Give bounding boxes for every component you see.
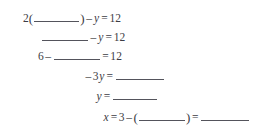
- blank-field-4[interactable]: [116, 70, 164, 80]
- equals-sign-line-5: =: [102, 90, 112, 102]
- equals-sign-line-3: =: [101, 50, 111, 62]
- right-side-line-3: 12: [110, 50, 122, 62]
- equation-line-6: x=3–()=: [103, 110, 250, 124]
- equals-sign-2-line-6: =: [190, 111, 200, 123]
- blank-field-5[interactable]: [113, 90, 157, 100]
- minus-sign-line-3: –: [44, 50, 53, 62]
- left-number-line-3: 6: [38, 50, 44, 62]
- equation-line-1: 2()–y=12: [23, 11, 121, 25]
- coefficient-3-line-4: 3: [93, 70, 99, 82]
- equation-line-4: –3y=: [84, 70, 165, 83]
- variable-y-line-1: y: [94, 12, 100, 24]
- left-number-line-6: 3: [119, 111, 125, 123]
- equals-sign-line-2: =: [104, 31, 114, 43]
- equation-line-5: y=: [96, 90, 158, 103]
- minus-sign-line-6: –: [125, 111, 134, 123]
- close-paren-line-6: ): [186, 110, 190, 125]
- close-paren-line-1: ): [80, 11, 84, 26]
- blank-field-1[interactable]: [34, 12, 79, 22]
- minus-sign-line-4: –: [84, 70, 93, 82]
- variable-y-line-4: y: [99, 70, 105, 82]
- equals-sign-line-1: =: [100, 12, 110, 24]
- blank-field-6[interactable]: [139, 111, 185, 121]
- minus-sign-line-2: –: [89, 31, 98, 43]
- equals-sign-1-line-6: =: [109, 111, 119, 123]
- right-side-line-2: 12: [114, 31, 126, 43]
- blank-field-3[interactable]: [54, 50, 100, 60]
- equation-line-3: 6–=12: [38, 50, 122, 63]
- coefficient-2: 2: [23, 12, 29, 24]
- open-paren-line-6: (: [134, 110, 138, 125]
- open-paren-line-1: (: [29, 11, 33, 26]
- math-worksheet: 2()–y=12 –y=12 6–=12 –3y= y= x=3–()=: [0, 0, 266, 140]
- equation-line-2: –y=12: [41, 31, 125, 44]
- blank-field-2[interactable]: [42, 31, 88, 41]
- minus-sign-line-1: –: [85, 12, 94, 24]
- blank-field-7[interactable]: [201, 111, 249, 121]
- equals-sign-line-4: =: [105, 70, 115, 82]
- right-side-line-1: 12: [109, 12, 121, 24]
